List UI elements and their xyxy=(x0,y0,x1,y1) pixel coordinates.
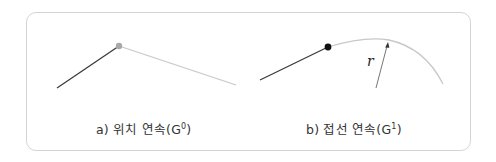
panel-b-geometry xyxy=(260,39,443,88)
caption-positional-continuity: a) 위치 연속(G0) xyxy=(96,119,191,138)
joint-point-b xyxy=(325,44,332,51)
caption-tangent-continuity: b) 접선 연속(G1) xyxy=(306,119,402,138)
continuity-diagram xyxy=(0,0,496,162)
radius-arrow-head xyxy=(385,42,389,48)
caption-a-text: a) 위치 연속(G xyxy=(96,122,181,137)
radius-arrow-line xyxy=(376,46,387,88)
segment-b1 xyxy=(260,47,328,80)
caption-b-close: ) xyxy=(397,122,402,137)
radius-label: r xyxy=(367,53,374,69)
segment-a2 xyxy=(119,46,236,85)
joint-point-a xyxy=(116,43,122,49)
caption-a-close: ) xyxy=(186,122,191,137)
caption-b-text: b) 접선 연속(G xyxy=(306,122,391,137)
panel-a-geometry xyxy=(57,43,236,88)
segment-a1 xyxy=(57,46,119,88)
arc-b xyxy=(328,39,443,84)
